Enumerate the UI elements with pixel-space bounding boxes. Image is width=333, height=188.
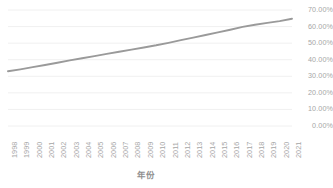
- y-tick-label: 70.00%: [308, 6, 333, 14]
- x-tick-label: 2017: [246, 142, 254, 158]
- x-tick-label: 2020: [283, 142, 291, 158]
- x-tick-label: 2008: [134, 142, 142, 158]
- x-tick-label: 1999: [23, 142, 31, 158]
- x-tick-label: 2004: [85, 142, 93, 158]
- x-tick-label: 2010: [159, 142, 167, 158]
- x-tick-label: 2005: [97, 142, 105, 158]
- x-tick-label: 2015: [221, 142, 229, 158]
- x-tick-label: 2016: [233, 142, 241, 158]
- x-tick-label: 2009: [147, 142, 155, 158]
- plot-area: [8, 10, 292, 126]
- y-tick-label: 20.00%: [308, 89, 333, 97]
- y-tick-label: 10.00%: [308, 105, 333, 113]
- x-axis: 1998199920002001200220032004200520062007…: [0, 128, 292, 162]
- x-tick-label: 2018: [258, 142, 266, 158]
- x-tick-label: 1998: [11, 142, 19, 158]
- y-tick-label: 30.00%: [308, 72, 333, 80]
- x-tick-label: 2011: [172, 142, 180, 158]
- series-path: [8, 19, 292, 72]
- x-tick-label: 2013: [196, 142, 204, 158]
- x-tick-label: 2003: [73, 142, 81, 158]
- x-tick-label: 2007: [122, 142, 130, 158]
- y-tick-label: 40.00%: [308, 56, 333, 64]
- x-tick-label: 2019: [270, 142, 278, 158]
- x-tick-label: 2021: [295, 142, 303, 158]
- x-tick-label: 2000: [36, 142, 44, 158]
- x-tick-label: 2002: [60, 142, 68, 158]
- y-axis: 70.00%60.00%50.00%40.00%30.00%20.00%10.0…: [296, 0, 333, 136]
- x-tick-label: 2014: [209, 142, 217, 158]
- data-series-line: [8, 10, 292, 126]
- line-chart: 70.00%60.00%50.00%40.00%30.00%20.00%10.0…: [0, 0, 333, 188]
- x-axis-title: 年份: [0, 168, 292, 180]
- y-tick-label: 0.00%: [312, 122, 333, 130]
- x-tick-label: 2001: [48, 142, 56, 158]
- y-tick-label: 50.00%: [308, 39, 333, 47]
- y-tick-label: 60.00%: [308, 23, 333, 31]
- x-tick-label: 2012: [184, 142, 192, 158]
- x-tick-label: 2006: [110, 142, 118, 158]
